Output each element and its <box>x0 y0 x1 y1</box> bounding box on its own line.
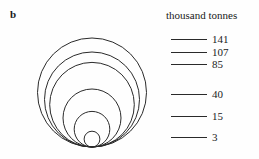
legend-item: 141 <box>171 33 229 45</box>
legend-line-icon <box>171 39 207 40</box>
legend-title: thousand tonnes <box>166 9 237 22</box>
value-circle <box>84 131 100 147</box>
legend-value-label: 85 <box>212 59 223 70</box>
legend-item: 3 <box>171 131 218 143</box>
legend-item: 15 <box>171 110 223 122</box>
legend-item: 85 <box>171 58 223 70</box>
legend-item: 107 <box>171 46 229 58</box>
circle-group <box>38 38 147 147</box>
legend-value-label: 15 <box>212 111 223 122</box>
legend-value-label: 141 <box>212 34 229 45</box>
legend-value-label: 107 <box>212 47 229 58</box>
figure-panel-b: b thousand tonnes 1411078540153 <box>0 0 259 159</box>
value-circle <box>50 62 135 147</box>
legend-line-icon <box>171 52 207 53</box>
value-circle <box>45 52 140 147</box>
legend-item: 40 <box>171 88 223 100</box>
legend-line-icon <box>171 137 207 138</box>
value-circle <box>38 38 147 147</box>
legend-line-icon <box>171 64 207 65</box>
legend-value-label: 3 <box>212 132 218 143</box>
legend-value-label: 40 <box>212 89 223 100</box>
value-circle <box>63 89 121 147</box>
legend-line-icon <box>171 116 207 117</box>
proportional-circles-chart <box>0 0 259 159</box>
legend-line-icon <box>171 94 207 95</box>
value-circle <box>74 111 110 147</box>
